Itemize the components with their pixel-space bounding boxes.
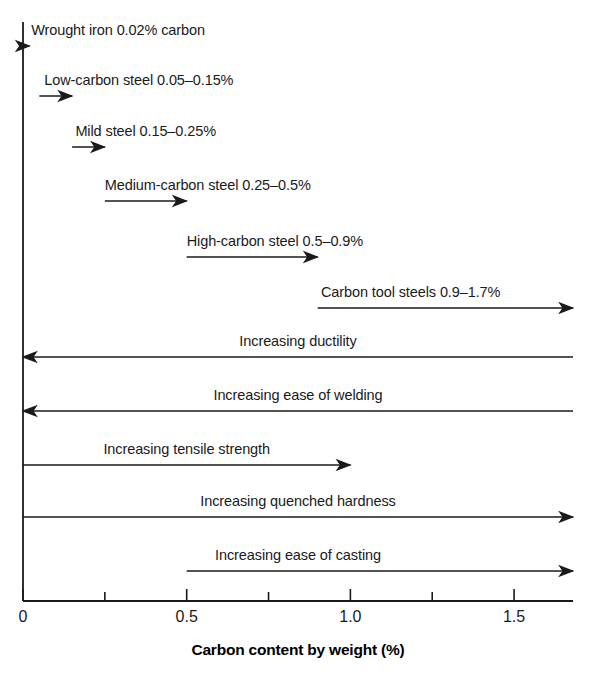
series-label: High-carbon steel 0.5–0.9% bbox=[187, 233, 363, 249]
series-label: Low-carbon steel 0.05–0.15% bbox=[44, 72, 233, 88]
axis-tick-label: 1.5 bbox=[503, 608, 525, 626]
axis-group bbox=[23, 22, 573, 601]
axis-tick-group bbox=[23, 589, 514, 601]
carbon-content-chart: Wrought iron 0.02% carbonLow-carbon stee… bbox=[0, 0, 594, 693]
series-label: Medium-carbon steel 0.25–0.5% bbox=[105, 177, 311, 193]
series-label: Wrought iron 0.02% carbon bbox=[31, 22, 205, 38]
axis-tick-label: 0.5 bbox=[176, 608, 198, 626]
series-label: Increasing ease of casting bbox=[215, 547, 381, 563]
series-label: Increasing ductility bbox=[239, 333, 356, 349]
series-label: Increasing tensile strength bbox=[103, 441, 270, 457]
series-label: Mild steel 0.15–0.25% bbox=[75, 123, 216, 139]
series-label: Increasing ease of welding bbox=[213, 387, 382, 403]
x-axis-title: Carbon content by weight (%) bbox=[191, 641, 404, 659]
axis-tick-label: 1.0 bbox=[339, 608, 361, 626]
axis-tick-label: 0 bbox=[19, 608, 28, 626]
series-label: Increasing quenched hardness bbox=[200, 493, 396, 509]
series-label: Carbon tool steels 0.9–1.7% bbox=[321, 284, 500, 300]
